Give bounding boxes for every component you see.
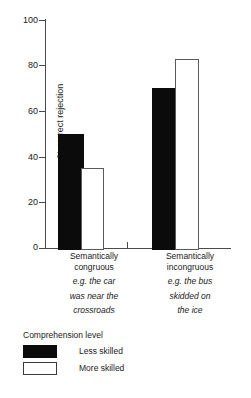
category-example-line2: skidded on xyxy=(137,291,243,302)
y-tick-label-60: 60 xyxy=(28,107,38,116)
category-example-line3: the ice xyxy=(137,305,243,316)
legend-item-more-skilled: More skilled xyxy=(23,361,173,376)
category-example-line3: crossroads xyxy=(41,305,147,316)
y-tick-label-0: 0 xyxy=(33,243,38,252)
y-tick-60 xyxy=(39,111,45,112)
category-name-line2: congruous xyxy=(41,262,147,273)
category-example-line2: was near the xyxy=(41,291,147,302)
category-example-line1: e.g. the bus xyxy=(137,276,243,287)
y-tick-label-80: 80 xyxy=(28,61,38,70)
bar-incongruous-more-skilled xyxy=(175,59,199,250)
bar-congruous-more-skilled xyxy=(81,168,104,250)
bar-chart-figure: % correct rejection 100 80 60 40 20 0 Se… xyxy=(0,0,251,398)
legend-title: Comprehension level xyxy=(23,330,173,341)
category-label-incongruous: Semantically incongruous e.g. the bus sk… xyxy=(137,251,243,316)
legend: Comprehension level Less skilled More sk… xyxy=(23,330,173,378)
legend-swatch-white xyxy=(23,362,57,375)
y-tick-20 xyxy=(39,202,45,203)
x-axis-category-labels: Semantically congruous e.g. the car was … xyxy=(45,251,231,323)
y-tick-100 xyxy=(39,20,45,21)
legend-label-more-skilled: More skilled xyxy=(79,363,124,374)
y-axis-line xyxy=(45,19,46,249)
cropped-caption-text xyxy=(8,391,244,398)
legend-item-less-skilled: Less skilled xyxy=(23,344,173,359)
category-example-line1: e.g. the car xyxy=(41,276,147,287)
category-name-line1: Semantically xyxy=(137,251,243,262)
y-tick-80 xyxy=(39,65,45,66)
y-tick-label-100: 100 xyxy=(23,16,38,25)
y-tick-label-40: 40 xyxy=(28,153,38,162)
category-name-line1: Semantically xyxy=(41,251,147,262)
y-tick-label-20: 20 xyxy=(28,198,38,207)
y-tick-0 xyxy=(39,248,45,249)
y-tick-40 xyxy=(39,157,45,158)
category-label-congruous: Semantically congruous e.g. the car was … xyxy=(41,251,147,316)
category-name-line2: incongruous xyxy=(137,262,243,273)
legend-label-less-skilled: Less skilled xyxy=(79,346,123,357)
legend-swatch-black xyxy=(23,345,57,358)
x-axis-group-separator xyxy=(127,242,128,249)
